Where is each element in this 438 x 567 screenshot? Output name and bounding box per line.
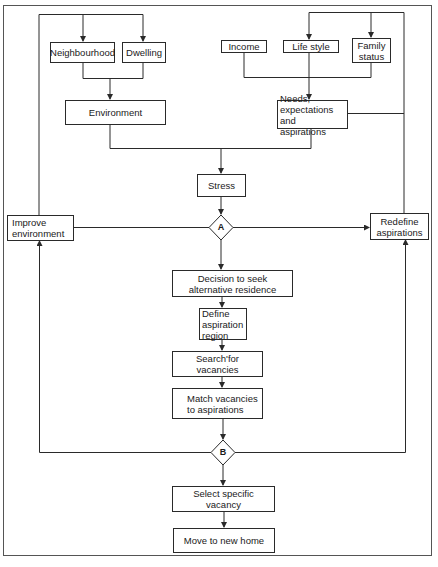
node-select-vacancy: Select specific vacancy bbox=[172, 486, 275, 512]
node-improve-environment: Improve environment bbox=[7, 215, 74, 241]
node-search-vacancies: Search'for vacancies bbox=[172, 351, 263, 377]
node-label: Family status bbox=[358, 40, 386, 62]
node-label: Select specific vacancy bbox=[176, 488, 271, 510]
node-label: Neighbourhood bbox=[50, 47, 115, 58]
node-label: Needs, expectations and aspirations bbox=[280, 93, 344, 137]
node-label: Move to new home bbox=[184, 535, 264, 546]
node-label: Decision to seek alternative residence bbox=[189, 273, 277, 295]
node-label: Match vacancies to aspirations bbox=[187, 393, 258, 415]
node-label: Life style bbox=[292, 41, 330, 52]
node-define-region: Define aspiration region bbox=[199, 308, 247, 340]
node-neighbourhood: Neighbourhood bbox=[50, 42, 115, 63]
node-label: Environment bbox=[89, 107, 142, 118]
node-dwelling: Dwelling bbox=[122, 42, 166, 63]
decision-a-label: A bbox=[211, 222, 231, 232]
node-income: Income bbox=[221, 40, 267, 53]
node-label: Improve environment bbox=[12, 217, 64, 239]
node-decision-seek: Decision to seek alternative residence bbox=[172, 270, 293, 297]
node-label: Redefine aspirations bbox=[377, 216, 423, 238]
node-needs: Needs, expectations and aspirations bbox=[277, 100, 348, 129]
decision-b-label: B bbox=[213, 447, 233, 457]
node-stress: Stress bbox=[197, 174, 246, 197]
node-label: Define aspiration region bbox=[202, 308, 243, 341]
node-label: Income bbox=[228, 41, 259, 52]
node-label: Stress bbox=[208, 180, 235, 191]
node-redefine-aspirations: Redefine aspirations bbox=[370, 213, 429, 240]
node-environment: Environment bbox=[65, 100, 166, 125]
node-life-style: Life style bbox=[283, 40, 339, 53]
node-move-home: Move to new home bbox=[173, 528, 275, 553]
node-match-vacancies: Match vacancies to aspirations bbox=[172, 388, 263, 419]
node-label: Dwelling bbox=[126, 47, 162, 58]
node-label: Search'for vacancies bbox=[176, 353, 259, 375]
node-family-status: Family status bbox=[352, 38, 391, 63]
